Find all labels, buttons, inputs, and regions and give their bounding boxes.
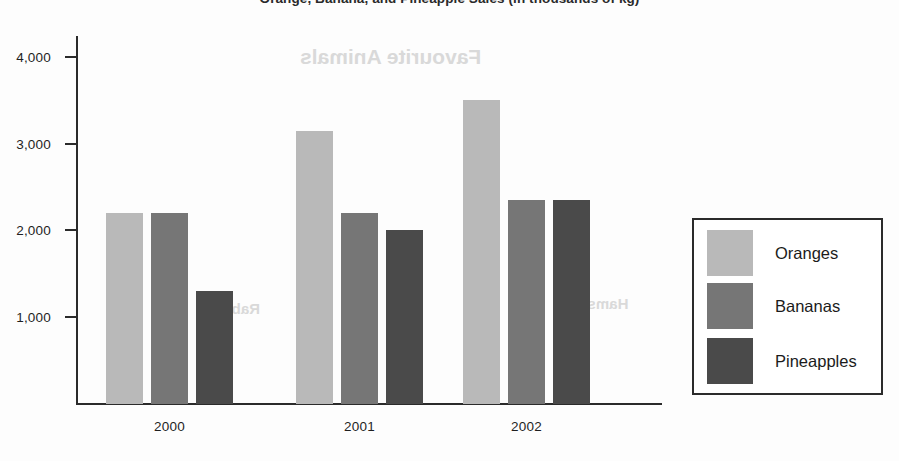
bar-pineapples-2001 [386, 230, 423, 404]
y-axis-tick-label: 4,000 [16, 49, 51, 64]
bar-bananas-2000 [151, 213, 188, 404]
legend-label-pineapples: Pineapples [775, 352, 857, 371]
x-axis-tick-label-2002: 2002 [457, 419, 597, 434]
legend-swatch-pineapples [707, 338, 753, 384]
y-axis-tick: 2,000 [65, 229, 76, 231]
bar-bananas-2001 [341, 213, 378, 404]
y-axis-tick: 1,000 [65, 316, 76, 318]
chart-title: Orange, Banana, and Pineapple Sales (in … [0, 0, 899, 6]
y-axis-tick-label: 1,000 [16, 310, 51, 325]
legend-swatch-oranges [707, 230, 753, 276]
x-axis-tick-label-2000: 2000 [100, 419, 240, 434]
plot-area: 1,0002,0003,0004,000 200020012002 [76, 30, 676, 410]
y-axis-tick-label: 2,000 [16, 223, 51, 238]
x-axis-tick-label-2001: 2001 [290, 419, 430, 434]
bar-bananas-2002 [508, 200, 545, 404]
bar-oranges-2002 [463, 100, 500, 404]
legend-label-bananas: Bananas [775, 297, 840, 316]
y-axis-tick: 4,000 [65, 56, 76, 58]
chart-legend: OrangesBananasPineapples [692, 218, 883, 395]
legend-item-pineapples[interactable]: Pineapples [707, 338, 857, 384]
y-axis-tick-label: 3,000 [16, 136, 51, 151]
bar-pineapples-2002 [553, 200, 590, 404]
legend-item-oranges[interactable]: Oranges [707, 230, 838, 276]
legend-item-bananas[interactable]: Bananas [707, 283, 840, 329]
y-axis-line [76, 36, 78, 405]
legend-swatch-bananas [707, 283, 753, 329]
bar-oranges-2000 [106, 213, 143, 404]
bar-pineapples-2000 [196, 291, 233, 404]
y-axis-tick: 3,000 [65, 143, 76, 145]
legend-label-oranges: Oranges [775, 244, 838, 263]
bar-oranges-2001 [296, 131, 333, 404]
bar-chart: Orange, Banana, and Pineapple Sales (in … [0, 0, 899, 461]
